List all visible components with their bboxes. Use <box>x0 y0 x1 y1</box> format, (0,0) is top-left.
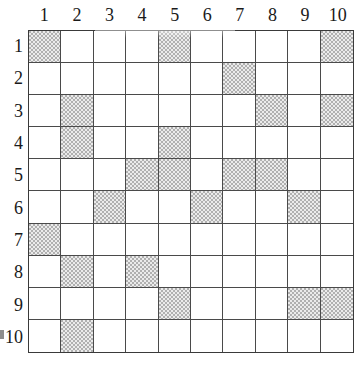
grid-cell-r5-c3[interactable] <box>94 159 126 191</box>
grid-cell-r4-c9[interactable] <box>288 127 320 159</box>
grid-cell-r6-c3[interactable] <box>94 191 126 223</box>
grid-cell-r10-c1[interactable] <box>29 320 61 352</box>
grid-cell-r1-c4[interactable] <box>126 31 158 63</box>
grid-cell-r6-c6[interactable] <box>191 191 223 223</box>
grid-cell-r2-c8[interactable] <box>256 63 288 95</box>
grid-cell-r5-c4[interactable] <box>126 159 158 191</box>
grid-cell-r6-c5[interactable] <box>159 191 191 223</box>
grid-cell-r7-c4[interactable] <box>126 224 158 256</box>
grid-cell-r7-c5[interactable] <box>159 224 191 256</box>
grid-cell-r3-c2[interactable] <box>61 95 93 127</box>
grid-cell-r10-c4[interactable] <box>126 320 158 352</box>
grid-cell-r10-c5[interactable] <box>159 320 191 352</box>
grid-cell-r7-c8[interactable] <box>256 224 288 256</box>
grid-cell-r2-c4[interactable] <box>126 63 158 95</box>
grid-cell-r1-c8[interactable] <box>256 31 288 63</box>
grid-cell-r3-c4[interactable] <box>126 95 158 127</box>
grid-cell-r1-c9[interactable] <box>288 31 320 63</box>
grid-cell-r6-c9[interactable] <box>288 191 320 223</box>
grid-cell-r10-c2[interactable] <box>61 320 93 352</box>
grid-cell-r10-c10[interactable] <box>321 320 353 352</box>
grid-cell-r9-c5[interactable] <box>159 288 191 320</box>
grid-cell-r1-c3[interactable] <box>94 31 126 63</box>
grid-cell-r5-c10[interactable] <box>321 159 353 191</box>
grid-cell-r8-c3[interactable] <box>94 256 126 288</box>
grid-cell-r3-c3[interactable] <box>94 95 126 127</box>
grid-cell-r1-c2[interactable] <box>61 31 93 63</box>
grid-cell-r4-c5[interactable] <box>159 127 191 159</box>
grid-cell-r7-c2[interactable] <box>61 224 93 256</box>
grid-cell-r2-c2[interactable] <box>61 63 93 95</box>
grid-cell-r5-c5[interactable] <box>159 159 191 191</box>
grid-cell-r7-c10[interactable] <box>321 224 353 256</box>
grid-cell-r5-c2[interactable] <box>61 159 93 191</box>
grid-cell-r7-c9[interactable] <box>288 224 320 256</box>
grid-cell-r2-c9[interactable] <box>288 63 320 95</box>
grid-cell-r10-c7[interactable] <box>223 320 255 352</box>
grid-cell-r4-c6[interactable] <box>191 127 223 159</box>
grid-cell-r4-c2[interactable] <box>61 127 93 159</box>
grid-cell-r3-c5[interactable] <box>159 95 191 127</box>
grid-cell-r3-c7[interactable] <box>223 95 255 127</box>
grid-cell-r5-c8[interactable] <box>256 159 288 191</box>
grid-cell-r1-c5[interactable] <box>159 31 191 63</box>
grid-cell-r4-c10[interactable] <box>321 127 353 159</box>
grid-cell-r2-c10[interactable] <box>321 63 353 95</box>
grid-cell-r3-c1[interactable] <box>29 95 61 127</box>
grid-cell-r10-c9[interactable] <box>288 320 320 352</box>
grid-cell-r6-c10[interactable] <box>321 191 353 223</box>
grid-cell-r8-c7[interactable] <box>223 256 255 288</box>
grid-cell-r10-c3[interactable] <box>94 320 126 352</box>
grid-cell-r7-c3[interactable] <box>94 224 126 256</box>
grid-cell-r2-c6[interactable] <box>191 63 223 95</box>
grid-cell-r7-c1[interactable] <box>29 224 61 256</box>
grid-cell-r10-c8[interactable] <box>256 320 288 352</box>
grid-cell-r4-c4[interactable] <box>126 127 158 159</box>
grid-cell-r2-c3[interactable] <box>94 63 126 95</box>
grid-cell-r9-c8[interactable] <box>256 288 288 320</box>
grid-cell-r4-c1[interactable] <box>29 127 61 159</box>
grid-cell-r8-c5[interactable] <box>159 256 191 288</box>
grid-cell-r2-c7[interactable] <box>223 63 255 95</box>
grid-cell-r9-c6[interactable] <box>191 288 223 320</box>
grid-cell-r8-c2[interactable] <box>61 256 93 288</box>
grid-cell-r9-c2[interactable] <box>61 288 93 320</box>
grid-cell-r8-c1[interactable] <box>29 256 61 288</box>
grid-cell-r1-c1[interactable] <box>29 31 61 63</box>
grid-cell-r5-c9[interactable] <box>288 159 320 191</box>
grid-cell-r5-c7[interactable] <box>223 159 255 191</box>
grid-cell-r6-c2[interactable] <box>61 191 93 223</box>
grid-cell-r1-c10[interactable] <box>321 31 353 63</box>
grid-cell-r9-c9[interactable] <box>288 288 320 320</box>
grid-cell-r8-c4[interactable] <box>126 256 158 288</box>
grid-cell-r1-c6[interactable] <box>191 31 223 63</box>
grid-cell-r10-c6[interactable] <box>191 320 223 352</box>
grid-cell-r9-c10[interactable] <box>321 288 353 320</box>
grid-cell-r8-c8[interactable] <box>256 256 288 288</box>
grid-cell-r9-c1[interactable] <box>29 288 61 320</box>
grid-cell-r9-c3[interactable] <box>94 288 126 320</box>
grid-cell-r2-c5[interactable] <box>159 63 191 95</box>
grid-cell-r6-c8[interactable] <box>256 191 288 223</box>
grid-cell-r8-c10[interactable] <box>321 256 353 288</box>
grid-cell-r5-c6[interactable] <box>191 159 223 191</box>
grid-cell-r7-c6[interactable] <box>191 224 223 256</box>
grid-cell-r3-c6[interactable] <box>191 95 223 127</box>
grid-cell-r6-c4[interactable] <box>126 191 158 223</box>
grid-cell-r1-c7[interactable] <box>223 31 255 63</box>
grid-cell-r9-c4[interactable] <box>126 288 158 320</box>
grid-cell-r4-c3[interactable] <box>94 127 126 159</box>
grid-cell-r6-c1[interactable] <box>29 191 61 223</box>
grid-cell-r8-c6[interactable] <box>191 256 223 288</box>
grid-cell-r8-c9[interactable] <box>288 256 320 288</box>
grid-cell-r5-c1[interactable] <box>29 159 61 191</box>
grid-cell-r6-c7[interactable] <box>223 191 255 223</box>
grid-cell-r3-c9[interactable] <box>288 95 320 127</box>
grid-cell-r4-c7[interactable] <box>223 127 255 159</box>
grid-cell-r4-c8[interactable] <box>256 127 288 159</box>
grid-cell-r3-c8[interactable] <box>256 95 288 127</box>
grid-cell-r3-c10[interactable] <box>321 95 353 127</box>
grid-cell-r9-c7[interactable] <box>223 288 255 320</box>
grid-cell-r7-c7[interactable] <box>223 224 255 256</box>
grid-cell-r2-c1[interactable] <box>29 63 61 95</box>
